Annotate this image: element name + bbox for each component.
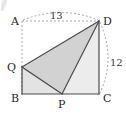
vertex-label-c: C (103, 92, 111, 105)
measure-label-top: 13 (50, 10, 63, 21)
vertex-label-b: B (11, 92, 19, 105)
geometry-figure-container: A D B C Q P 13 12 (0, 0, 126, 114)
arc-right-12 (100, 22, 108, 93)
measure-label-right: 12 (110, 57, 123, 68)
geometry-diagram: A D B C Q P 13 12 (0, 0, 126, 114)
vertex-label-a: A (10, 15, 20, 28)
vertex-label-d: D (103, 15, 112, 28)
vertex-label-q: Q (7, 61, 16, 74)
shaded-regions-group (22, 21, 99, 94)
vertex-label-p: P (58, 98, 66, 111)
